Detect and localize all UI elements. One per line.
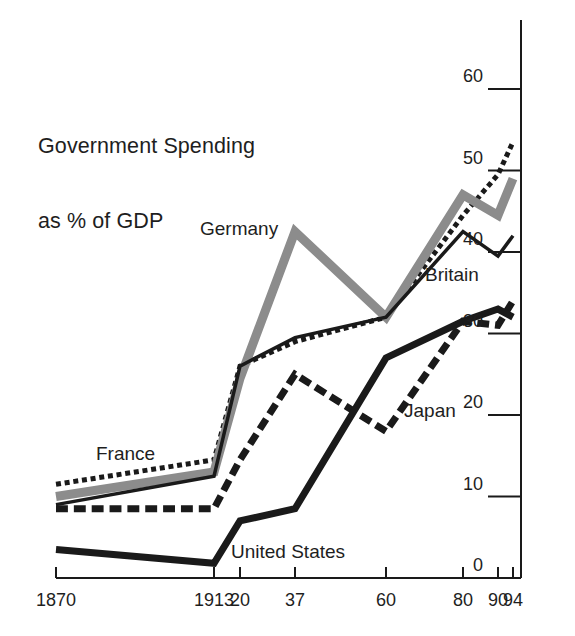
y-tick-label-10: 10 (431, 474, 483, 495)
government-spending-chart: Government Spending as % of GDP FranceGe… (0, 0, 575, 636)
x-tick-label-1870: 1870 (16, 590, 96, 611)
series-label-united-states: United States (231, 541, 345, 563)
chart-title: Government Spending as % of GDP (38, 84, 255, 284)
chart-title-line-1: Government Spending (38, 134, 255, 159)
y-tick-label-40: 40 (431, 229, 483, 250)
y-tick-label-50: 50 (431, 148, 483, 169)
series-label-france: France (96, 443, 155, 465)
y-tick-label-0: 0 (431, 555, 483, 576)
series-label-germany: Germany (200, 218, 278, 240)
y-tick-label-30: 30 (431, 311, 483, 332)
x-tick-label-60: 60 (346, 590, 426, 611)
y-tick-label-20: 20 (431, 392, 483, 413)
x-tick-label-94: 94 (473, 590, 553, 611)
series-label-britain: Britain (425, 264, 479, 286)
y-tick-label-60: 60 (431, 66, 483, 87)
x-tick-label-37: 37 (255, 590, 335, 611)
